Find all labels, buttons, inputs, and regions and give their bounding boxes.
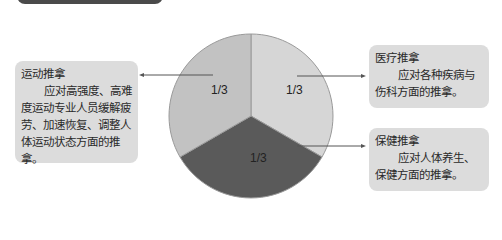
slice-label-health: 1/3 — [250, 151, 267, 165]
callout-body: 应对人体养生、保健方面的推拿。 — [375, 150, 483, 184]
slice-label-sports: 1/3 — [211, 83, 228, 97]
callout-body: 应对高强度、高难度运动专业人员缓解疲劳、加速恢复、调整人体运动状态方面的推拿。 — [21, 83, 132, 168]
arrowhead-sports — [139, 73, 144, 77]
callout-sports-massage: 运动推拿 应对高强度、高难度运动专业人员缓解疲劳、加速恢复、调整人体运动状态方面… — [15, 61, 138, 163]
callout-title: 医疗推拿 — [375, 50, 483, 67]
callout-title: 保健推拿 — [375, 133, 483, 150]
arrowhead-health — [361, 144, 366, 148]
callout-body: 应对各种疾病与伤科方面的推拿。 — [375, 67, 483, 101]
callout-title: 运动推拿 — [21, 66, 132, 83]
arrowhead-medical — [361, 74, 366, 78]
callout-medical-massage: 医疗推拿 应对各种疾病与伤科方面的推拿。 — [369, 45, 489, 108]
callout-health-massage: 保健推拿 应对人体养生、保健方面的推拿。 — [369, 128, 489, 191]
slice-label-medical: 1/3 — [286, 83, 303, 97]
